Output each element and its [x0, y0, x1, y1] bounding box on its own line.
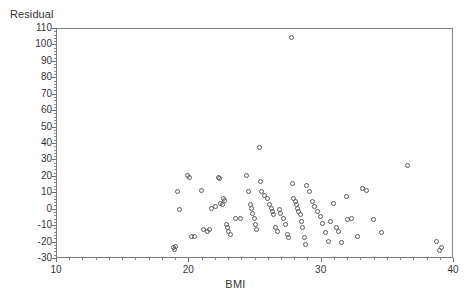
data-point: [257, 145, 262, 150]
data-point: [228, 232, 233, 237]
y-tick-label: 50: [41, 122, 52, 132]
x-tick-minor: [360, 258, 361, 260]
x-tick-minor: [334, 258, 335, 260]
x-tick-minor: [281, 258, 282, 260]
data-point: [258, 179, 263, 184]
data-point: [298, 212, 303, 217]
data-point: [271, 212, 276, 217]
scatter-chart: Residual -30-20-100102030405060708090100…: [0, 0, 471, 300]
data-point: [307, 189, 312, 194]
x-tick-minor: [427, 258, 428, 260]
x-tick-minor: [69, 258, 70, 260]
y-tick-label: 80: [41, 72, 52, 82]
y-tick-label: 20: [41, 171, 52, 181]
x-tick-minor: [307, 258, 308, 260]
y-axis-title: Residual: [10, 8, 54, 20]
y-tick-label: 60: [41, 105, 52, 115]
data-point: [328, 219, 333, 224]
x-tick-label: 40: [438, 264, 468, 275]
data-point: [244, 173, 249, 178]
y-tick-label: 90: [41, 56, 52, 66]
x-tick-minor: [387, 258, 388, 260]
x-tick-minor: [135, 258, 136, 260]
data-point: [281, 216, 286, 221]
x-tick-label: 20: [173, 264, 203, 275]
data-point: [177, 207, 182, 212]
x-tick-minor: [241, 258, 242, 260]
x-tick-mark: [321, 258, 322, 262]
y-tick-label: 100: [35, 39, 52, 49]
x-tick-minor: [162, 258, 163, 260]
data-point: [199, 188, 204, 193]
data-point: [364, 188, 369, 193]
data-point: [217, 176, 222, 181]
data-point: [192, 234, 197, 239]
data-point: [302, 235, 307, 240]
x-tick-minor: [440, 258, 441, 260]
y-tick-label: -10: [38, 220, 52, 230]
data-point: [286, 235, 291, 240]
data-point: [246, 189, 251, 194]
data-point: [222, 198, 227, 203]
data-point: [213, 204, 218, 209]
y-tick-label: 110: [36, 23, 52, 33]
data-point: [275, 229, 280, 234]
data-point: [336, 229, 341, 234]
data-point: [175, 189, 180, 194]
data-point: [290, 181, 295, 186]
data-point: [299, 219, 304, 224]
data-point: [331, 201, 336, 206]
data-point: [220, 202, 225, 207]
data-point: [249, 206, 254, 211]
data-point: [233, 216, 238, 221]
data-point: [355, 234, 360, 239]
y-tick-label: 40: [41, 138, 52, 148]
data-point: [318, 214, 323, 219]
data-point: [252, 216, 257, 221]
x-tick-minor: [215, 258, 216, 260]
x-tick-minor: [149, 258, 150, 260]
x-tick-minor: [82, 258, 83, 260]
data-point: [323, 230, 328, 235]
data-point: [207, 227, 212, 232]
data-point: [303, 242, 308, 247]
data-point: [254, 227, 259, 232]
x-tick-minor: [347, 258, 348, 260]
data-point: [371, 217, 376, 222]
x-tick-minor: [255, 258, 256, 260]
x-tick-minor: [96, 258, 97, 260]
data-point: [304, 183, 309, 188]
data-point: [320, 221, 325, 226]
data-point: [300, 225, 305, 230]
x-tick-minor: [294, 258, 295, 260]
data-point: [238, 216, 243, 221]
x-tick-label: 30: [306, 264, 336, 275]
data-point: [265, 196, 270, 201]
x-tick-minor: [268, 258, 269, 260]
y-tick-label: 0: [46, 204, 52, 214]
y-tick-label: 10: [41, 187, 52, 197]
x-tick-minor: [175, 258, 176, 260]
plot-area: [56, 28, 453, 258]
data-point: [349, 216, 354, 221]
x-tick-mark: [453, 258, 454, 262]
x-axis-title: BMI: [0, 278, 471, 290]
data-point: [278, 211, 283, 216]
data-point: [326, 239, 331, 244]
y-tick-label: -20: [38, 237, 52, 247]
x-tick-mark: [188, 258, 189, 262]
x-tick-minor: [228, 258, 229, 260]
x-tick-minor: [400, 258, 401, 260]
x-tick-minor: [202, 258, 203, 260]
data-point: [344, 194, 349, 199]
y-tick-label: -30: [38, 253, 52, 263]
data-point: [283, 222, 288, 227]
x-tick-mark: [56, 258, 57, 262]
data-point: [289, 35, 294, 40]
data-point: [379, 230, 384, 235]
x-tick-label: 10: [41, 264, 71, 275]
y-tick-label: 70: [41, 89, 52, 99]
y-tick-label: 30: [41, 154, 52, 164]
x-tick-minor: [109, 258, 110, 260]
x-tick-minor: [413, 258, 414, 260]
